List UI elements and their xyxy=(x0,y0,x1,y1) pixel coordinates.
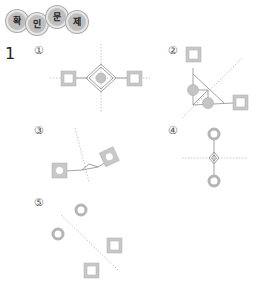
figure-4 xyxy=(182,129,248,186)
shaded-circle-icon xyxy=(96,73,106,83)
ring-icon xyxy=(209,176,219,186)
figure-2 xyxy=(182,47,248,118)
shaded-circle-icon xyxy=(188,85,199,96)
ring-icon xyxy=(76,205,86,215)
ring-icon xyxy=(53,229,63,239)
figure-3 xyxy=(52,128,119,182)
shaded-circle-icon xyxy=(203,98,214,109)
figure-1 xyxy=(50,44,150,113)
ring-icon xyxy=(209,129,219,139)
figure-5 xyxy=(53,205,122,278)
diagram-canvas: .dot { stroke:#bbb; stroke-width:0.8; st… xyxy=(0,0,261,288)
